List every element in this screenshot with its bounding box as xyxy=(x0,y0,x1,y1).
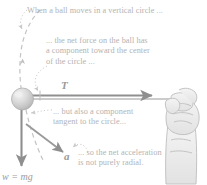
ball-layer xyxy=(0,0,207,185)
physics-vertical-circle-figure: When a ball moves in a vertical circle .… xyxy=(0,0,207,185)
ball-sphere-icon xyxy=(12,88,34,110)
